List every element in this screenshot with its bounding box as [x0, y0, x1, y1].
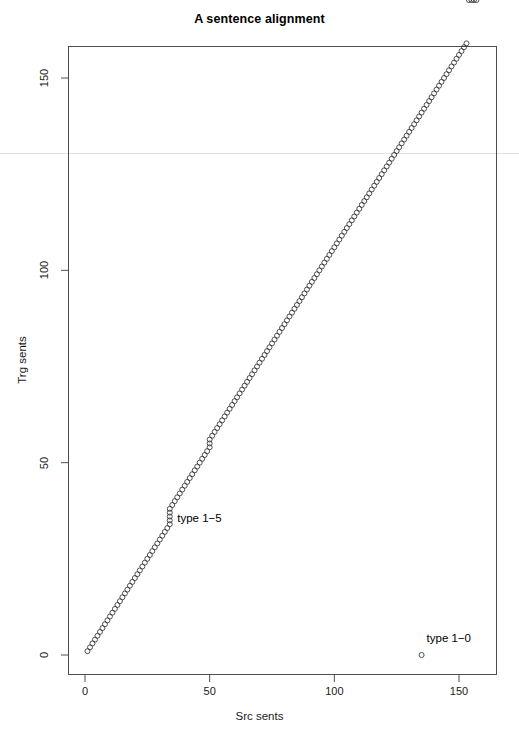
y-tick-label-50: 50	[38, 457, 50, 469]
x-axis-title: Src sents	[0, 710, 519, 722]
y-axis-title: Trg sents	[16, 336, 28, 384]
data-points-alignment	[85, 0, 479, 654]
x-axis-ticks	[85, 675, 459, 682]
x-tick-label-50: 50	[204, 685, 216, 697]
y-tick-label-150: 150	[38, 69, 50, 87]
x-tick-label-0: 0	[82, 685, 88, 697]
y-tick-label-0: 0	[38, 652, 50, 658]
data-point-outlier	[419, 653, 424, 658]
y-axis-ticks	[61, 78, 68, 655]
annotation-label-1: type 1−5	[177, 512, 221, 524]
annotation-label-2: type 1−0	[427, 632, 471, 644]
x-tick-label-150: 150	[450, 685, 468, 697]
chart-page: A sentence alignment 050100150 050100150…	[0, 0, 519, 742]
x-tick-label-100: 100	[325, 685, 343, 697]
data-point	[464, 41, 469, 46]
y-tick-label-100: 100	[38, 261, 50, 279]
data-point	[419, 653, 424, 658]
